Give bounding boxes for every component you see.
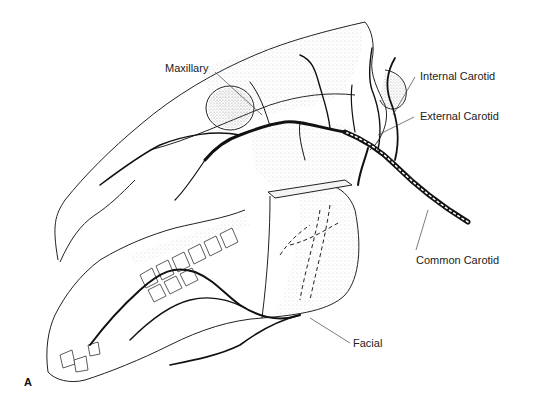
label-internal-carotid: Internal Carotid <box>420 70 495 82</box>
horse-head-artery-diagram <box>0 0 534 406</box>
label-maxillary: Maxillary <box>165 62 208 74</box>
incisors <box>60 342 100 372</box>
panel-label: A <box>24 376 32 388</box>
label-common-carotid: Common Carotid <box>416 254 499 266</box>
label-facial: Facial <box>353 337 382 349</box>
label-external-carotid: External Carotid <box>420 110 499 122</box>
